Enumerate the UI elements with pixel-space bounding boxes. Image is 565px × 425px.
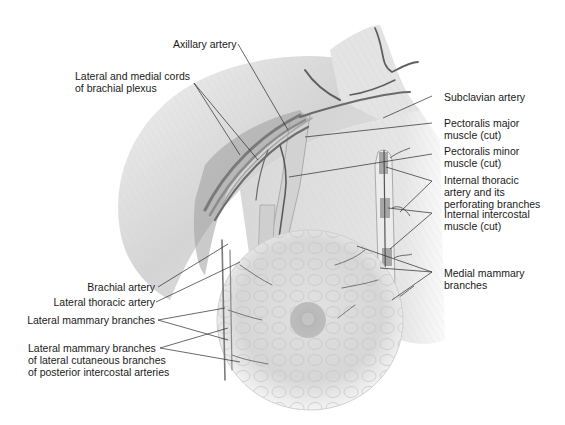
label-lateral-thoracic: Lateral thoracic artery — [20, 296, 155, 308]
label-brachial-plexus-cords: Lateral and medial cords of brachial ple… — [75, 70, 190, 94]
label-pectoralis-major: Pectoralis major muscle (cut) — [444, 117, 519, 141]
label-lateral-mammary-cutaneous: Lateral mammary branches of lateral cuta… — [28, 342, 169, 378]
label-medial-mammary: Medial mammary branches — [444, 267, 525, 291]
label-subclavian-artery: Subclavian artery — [444, 91, 525, 103]
label-internal-intercostal: Internal intercostal muscle (cut) — [444, 208, 530, 232]
leader-lateral-mammary-1 — [158, 308, 225, 320]
label-pectoralis-minor: Pectoralis minor muscle (cut) — [444, 145, 519, 169]
label-axillary-artery: Axillary artery — [173, 38, 237, 50]
breast — [217, 230, 403, 410]
leader-cutaneous-1 — [160, 328, 228, 348]
nipple — [301, 312, 315, 326]
intercostal-window-3 — [382, 248, 392, 266]
label-lateral-mammary: Lateral mammary branches — [0, 314, 155, 326]
label-internal-thoracic: Internal thoracic artery and its perfora… — [444, 174, 540, 210]
anatomy-figure: Axillary artery Lateral and medial cords… — [0, 0, 565, 425]
label-brachial-artery: Brachial artery — [40, 281, 155, 293]
